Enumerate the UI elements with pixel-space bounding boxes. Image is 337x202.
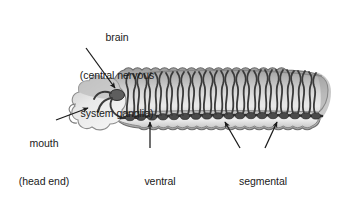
mouth-label-line-2: (head end)	[2, 175, 86, 188]
brain-label-line-2: (central nervous	[47, 69, 187, 82]
mouth-label: mouth (head end)	[2, 112, 86, 202]
mouth-label-line-1: mouth	[2, 137, 86, 150]
segmental-ganglia-label: segmental ganglia	[212, 150, 314, 202]
ventral-nerve-cord-label: ventral (along stomach) nerve cord	[104, 150, 216, 202]
diagram-canvas: brain (central nervous system ganglia) m…	[0, 0, 337, 202]
brain-label-line-1: brain	[47, 31, 187, 44]
segmental-label-line-1: segmental	[212, 175, 314, 188]
ventral-label-line-1: ventral	[104, 175, 216, 188]
